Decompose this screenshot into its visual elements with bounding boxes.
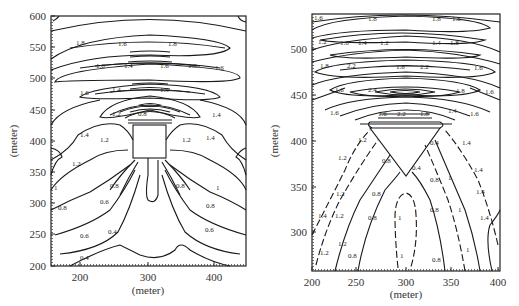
left-ytick: 250 bbox=[30, 228, 47, 240]
svg-text:2.2: 2.2 bbox=[347, 62, 356, 70]
svg-text:0.8: 0.8 bbox=[382, 157, 391, 165]
right-xtick: 400 bbox=[490, 276, 507, 288]
svg-text:0.8: 0.8 bbox=[58, 204, 67, 212]
right-xtick: 200 bbox=[304, 276, 321, 288]
svg-text:1.2: 1.2 bbox=[320, 249, 329, 257]
svg-text:1.6: 1.6 bbox=[485, 88, 494, 96]
svg-text:0.8: 0.8 bbox=[110, 182, 119, 190]
left-xtick: 200 bbox=[72, 271, 89, 283]
svg-text:1.6: 1.6 bbox=[452, 15, 461, 23]
svg-text:0.8: 0.8 bbox=[176, 182, 185, 190]
svg-text:2.2: 2.2 bbox=[420, 63, 429, 71]
svg-text:1.4: 1.4 bbox=[124, 62, 133, 70]
left-ytick: 550 bbox=[30, 41, 47, 53]
svg-text:1.8: 1.8 bbox=[320, 62, 329, 70]
svg-text:1.4: 1.4 bbox=[462, 139, 471, 147]
svg-text:1.6: 1.6 bbox=[215, 64, 224, 72]
svg-text:1.2: 1.2 bbox=[358, 136, 367, 144]
left-ytick: 600 bbox=[30, 10, 47, 22]
svg-text:1.6: 1.6 bbox=[96, 62, 105, 70]
svg-text:1.6: 1.6 bbox=[378, 110, 387, 118]
svg-text:1: 1 bbox=[54, 184, 58, 192]
svg-text:0.8: 0.8 bbox=[432, 256, 441, 264]
svg-text:0.4: 0.4 bbox=[80, 254, 89, 262]
svg-text:2.2: 2.2 bbox=[397, 110, 406, 118]
svg-text:1.2: 1.2 bbox=[338, 154, 347, 162]
left-xtick: 300 bbox=[140, 271, 157, 283]
svg-text:1.8: 1.8 bbox=[450, 39, 459, 47]
svg-text:0.4: 0.4 bbox=[108, 228, 117, 236]
svg-text:1: 1 bbox=[216, 184, 220, 192]
svg-text:1.6: 1.6 bbox=[330, 109, 339, 117]
right-ytick: 450 bbox=[291, 89, 308, 101]
svg-text:1.2: 1.2 bbox=[336, 190, 345, 198]
svg-text:0.8: 0.8 bbox=[138, 110, 147, 118]
right-ytick: 400 bbox=[291, 135, 308, 147]
svg-text:1.4: 1.4 bbox=[80, 131, 89, 139]
right-xtick: 250 bbox=[348, 276, 365, 288]
svg-text:1.4: 1.4 bbox=[212, 111, 221, 119]
left-contour-lines bbox=[51, 16, 246, 266]
right-ytick: 350 bbox=[291, 181, 308, 193]
left-ytick: 350 bbox=[30, 166, 47, 178]
right-xtick: 350 bbox=[443, 276, 460, 288]
svg-text:1.4: 1.4 bbox=[318, 212, 327, 220]
svg-text:1.6: 1.6 bbox=[160, 62, 169, 70]
svg-text:1.8: 1.8 bbox=[168, 40, 177, 48]
right-ytick: 300 bbox=[291, 226, 308, 238]
svg-text:0.8: 0.8 bbox=[372, 190, 381, 198]
svg-text:1.2: 1.2 bbox=[335, 212, 344, 220]
svg-text:1.5: 1.5 bbox=[160, 86, 169, 94]
svg-text:1.8: 1.8 bbox=[76, 39, 85, 47]
svg-text:1.6: 1.6 bbox=[314, 14, 323, 22]
left-ytick: 300 bbox=[30, 197, 47, 209]
svg-text:1.4: 1.4 bbox=[448, 107, 457, 115]
svg-text:0.8: 0.8 bbox=[368, 214, 377, 222]
svg-text:1.8: 1.8 bbox=[188, 62, 197, 70]
svg-text:1.6: 1.6 bbox=[470, 110, 479, 118]
svg-text:1.6: 1.6 bbox=[80, 89, 89, 97]
left-ytick: 200 bbox=[30, 260, 47, 272]
svg-text:1.8: 1.8 bbox=[432, 15, 441, 23]
svg-text:1: 1 bbox=[398, 214, 402, 222]
right-ytick: 500 bbox=[291, 43, 308, 55]
svg-text:1.6: 1.6 bbox=[118, 40, 127, 48]
svg-text:0.8: 0.8 bbox=[206, 202, 215, 210]
svg-text:1.4: 1.4 bbox=[476, 188, 485, 196]
svg-text:1.8: 1.8 bbox=[368, 15, 377, 23]
svg-text:0.6: 0.6 bbox=[205, 226, 214, 234]
svg-text:1.8: 1.8 bbox=[456, 87, 465, 95]
svg-text:1.2: 1.2 bbox=[338, 240, 347, 248]
svg-text:1.6: 1.6 bbox=[474, 64, 483, 72]
svg-text:1.6: 1.6 bbox=[335, 86, 344, 94]
right-contour-lines bbox=[312, 15, 500, 271]
left-ytick: 400 bbox=[30, 135, 47, 147]
figure-canvas: 200 300 400 (meter) 600 550 500 450 400 … bbox=[0, 0, 519, 306]
svg-text:1.4: 1.4 bbox=[112, 86, 121, 94]
svg-text:0.4: 0.4 bbox=[430, 139, 439, 147]
svg-text:0.8: 0.8 bbox=[430, 176, 439, 184]
svg-text:1: 1 bbox=[458, 206, 462, 214]
svg-text:1.4: 1.4 bbox=[358, 39, 367, 47]
svg-text:0.6: 0.6 bbox=[100, 198, 109, 206]
right-xlabel: (meter) bbox=[390, 288, 423, 301]
svg-text:1.4: 1.4 bbox=[206, 134, 215, 142]
svg-text:1.8: 1.8 bbox=[340, 39, 349, 47]
svg-text:1.8: 1.8 bbox=[420, 110, 429, 118]
left-ylabel: (meter) bbox=[7, 124, 20, 157]
svg-text:1: 1 bbox=[466, 246, 470, 254]
right-ylabel: (meter) bbox=[268, 124, 281, 157]
svg-text:1.4: 1.4 bbox=[432, 39, 441, 47]
svg-text:0.6: 0.6 bbox=[80, 232, 89, 240]
svg-text:0.8: 0.8 bbox=[348, 252, 357, 260]
left-xtick: 400 bbox=[206, 271, 223, 283]
svg-text:2.4: 2.4 bbox=[368, 86, 377, 94]
svg-text:1.2: 1.2 bbox=[112, 110, 121, 118]
svg-text:1.2: 1.2 bbox=[182, 136, 191, 144]
svg-text:1.2: 1.2 bbox=[380, 39, 389, 47]
left-ytick: 500 bbox=[30, 72, 47, 84]
svg-text:1: 1 bbox=[400, 252, 404, 260]
left-contour-plot: 200 300 400 (meter) 600 550 500 450 400 … bbox=[7, 10, 246, 297]
svg-text:1.2: 1.2 bbox=[100, 136, 109, 144]
svg-text:1.4: 1.4 bbox=[474, 166, 483, 174]
